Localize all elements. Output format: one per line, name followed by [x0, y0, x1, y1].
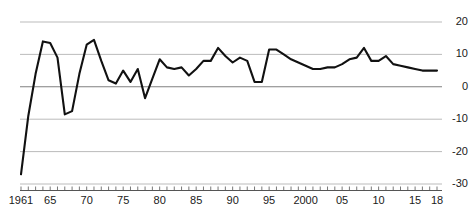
line-chart-plot — [0, 0, 471, 220]
x-tick-label-1990: 90 — [213, 195, 253, 206]
data-series-group — [21, 40, 437, 174]
x-tick-label-2010: 10 — [359, 195, 399, 206]
chart-container: 20100-10-20-30 1961657075808590952000051… — [0, 0, 471, 220]
x-tick-label-1965: 65 — [30, 195, 70, 206]
x-tick-label-1980: 80 — [140, 195, 180, 206]
x-tick-label-1975: 75 — [103, 195, 143, 206]
gridlines-group — [20, 22, 442, 184]
y-tick-label-neg30: -30 — [444, 178, 468, 189]
series-line-0 — [21, 40, 437, 174]
y-tick-label-neg20: -20 — [444, 146, 468, 157]
y-tick-label-neg10: -10 — [444, 113, 468, 124]
x-axis-line-and-ticks — [20, 187, 442, 191]
y-tick-label-20: 20 — [444, 16, 468, 27]
x-tick-label-1985: 85 — [176, 195, 216, 206]
y-tick-label-10: 10 — [444, 48, 468, 59]
x-tick-label-2000: 2000 — [286, 195, 326, 206]
x-tick-label-1970: 70 — [67, 195, 107, 206]
y-tick-label-0: 0 — [444, 81, 468, 92]
x-tick-label-2005: 05 — [322, 195, 362, 206]
x-tick-label-2018: 18 — [417, 195, 457, 206]
x-tick-label-1995: 95 — [249, 195, 289, 206]
